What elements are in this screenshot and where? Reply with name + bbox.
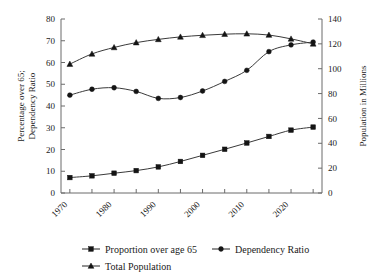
y-axis-title-left: Percentage over 65; — [16, 70, 26, 141]
datapoint-square — [68, 175, 73, 180]
y-ticklabel-left: 40 — [46, 101, 56, 111]
datapoint-square — [222, 147, 227, 152]
x-ticklabel: 2020 — [271, 199, 291, 219]
datapoint-diamond — [178, 95, 183, 100]
y-ticklabel-right: 60 — [328, 114, 338, 124]
y-ticklabel-left: 50 — [46, 79, 56, 89]
y-ticklabel-right: 0 — [328, 188, 333, 198]
datapoint-square — [134, 168, 139, 173]
y-ticklabel-right: 100 — [328, 64, 342, 74]
x-ticklabel: 1970 — [49, 199, 69, 219]
x-ticklabel: 1990 — [138, 199, 158, 219]
datapoint-diamond — [244, 68, 249, 73]
legend-marker-diamond — [219, 247, 224, 252]
legend-label-2: Total Population — [105, 261, 171, 272]
datapoint-square — [244, 141, 249, 146]
y-axis-title-left-2: Dependency Ratio — [27, 72, 37, 139]
x-ticklabel: 2010 — [226, 199, 246, 219]
datapoint-diamond — [112, 85, 117, 90]
datapoint-diamond — [67, 93, 72, 98]
y-ticklabel-left: 70 — [46, 36, 56, 46]
x-ticklabel: 1980 — [94, 199, 114, 219]
y-ticklabel-right: 20 — [328, 163, 338, 173]
datapoint-diamond — [200, 89, 205, 94]
legend-label-0: Proportion over age 65 — [105, 244, 197, 255]
y-ticklabel-left: 60 — [46, 58, 56, 68]
datapoint-diamond — [267, 49, 272, 54]
y-ticklabel-right: 80 — [328, 89, 338, 99]
datapoint-square — [311, 125, 316, 130]
datapoint-square — [267, 134, 272, 139]
y-ticklabel-right: 40 — [328, 138, 338, 148]
y-axis-title-right: Population in Millions — [358, 65, 368, 147]
datapoint-diamond — [90, 87, 95, 92]
y-ticklabel-left: 80 — [46, 14, 56, 24]
y-ticklabel-right: 140 — [328, 14, 342, 24]
datapoint-diamond — [134, 89, 139, 94]
y-ticklabel-left: 0 — [51, 188, 56, 198]
datapoint-square — [156, 165, 161, 170]
y-ticklabel-left: 20 — [46, 145, 56, 155]
x-ticklabel: 2000 — [182, 199, 202, 219]
population-aging-chart: 0102030405060708002040608010012014019701… — [0, 0, 384, 278]
datapoint-square — [178, 159, 183, 164]
y-ticklabel-left: 30 — [46, 123, 56, 133]
datapoint-square — [90, 174, 95, 179]
datapoint-square — [289, 128, 294, 133]
datapoint-diamond — [222, 79, 227, 84]
legend-marker-square — [89, 247, 94, 252]
series-line-proportion-over-age-65 — [70, 127, 313, 177]
y-ticklabel-left: 10 — [46, 166, 56, 176]
datapoint-diamond — [156, 96, 161, 101]
series-line-total-population — [70, 34, 313, 64]
datapoint-square — [112, 171, 117, 176]
datapoint-triangle — [67, 61, 73, 66]
datapoint-square — [200, 153, 205, 158]
series-line-dependency-ratio — [70, 42, 313, 99]
chart-canvas: 0102030405060708002040608010012014019701… — [0, 0, 384, 278]
legend-label-1: Dependency Ratio — [235, 244, 309, 255]
datapoint-diamond — [289, 42, 294, 47]
y-ticklabel-right: 120 — [328, 39, 342, 49]
